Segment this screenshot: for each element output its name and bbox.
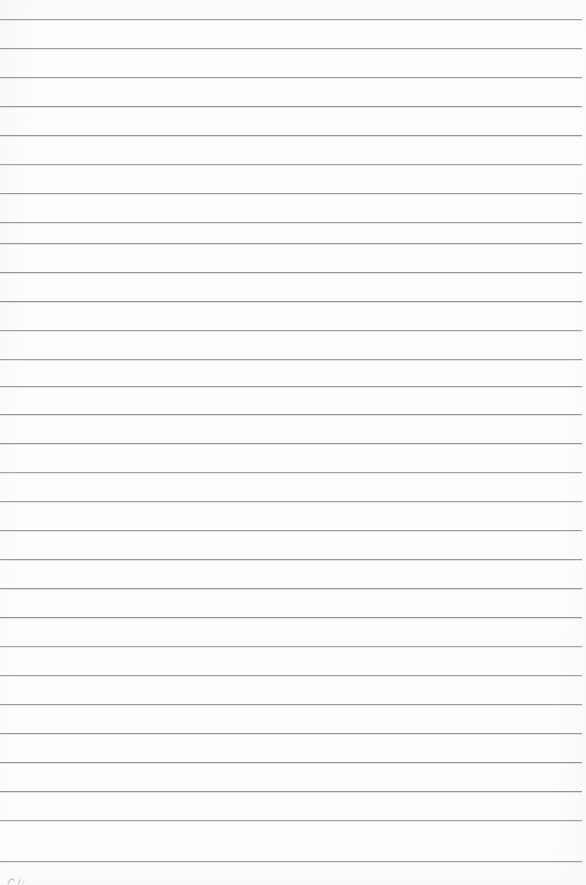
ruled-line [0,48,582,49]
ruled-line [0,559,582,560]
ruled-line [0,704,582,705]
ruled-line [0,617,582,618]
ruled-line [0,301,582,302]
bottom-left-ink-mark-icon [6,876,32,885]
ruled-line [0,501,582,502]
ruled-line [0,762,582,763]
ruled-line [0,791,582,792]
ruled-line [0,359,582,360]
ruled-line [0,272,582,273]
ruled-line [0,106,582,107]
ruled-line [0,675,582,676]
ruled-line [0,77,582,78]
ruled-line [0,164,582,165]
ruled-line [0,19,582,20]
ruled-line [0,386,582,387]
ruled-line [0,243,582,244]
ruled-line [0,222,582,223]
ruled-line [0,472,582,473]
ruled-line [0,733,582,734]
ruled-line [0,861,582,862]
scanned-page [0,0,586,885]
ruled-line [0,646,582,647]
ruled-line [0,588,582,589]
ruled-line [0,193,582,194]
ruled-line [0,414,582,415]
ruled-line [0,330,582,331]
ruled-line [0,443,582,444]
ruled-line [0,135,582,136]
ruled-line [0,820,582,821]
ruled-line [0,530,582,531]
